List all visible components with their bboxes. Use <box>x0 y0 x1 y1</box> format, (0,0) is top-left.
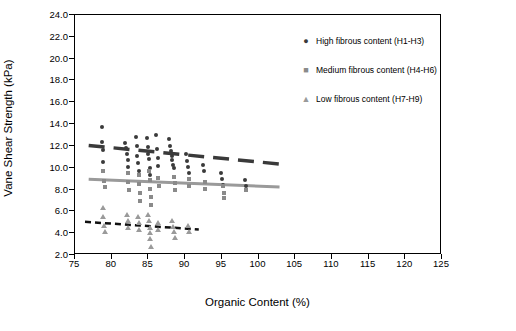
chart-legend: ● High fibrous content (H1-H3) ■ Medium … <box>300 36 437 123</box>
data-point <box>149 195 153 199</box>
x-tick-mark <box>331 254 332 259</box>
legend-circle-icon: ● <box>300 37 312 46</box>
data-point <box>155 227 161 232</box>
data-point <box>155 220 161 225</box>
data-point <box>201 163 205 167</box>
x-tick-label: 125 <box>433 258 449 269</box>
data-point <box>203 180 207 184</box>
data-point <box>137 182 141 186</box>
data-point <box>147 225 153 230</box>
legend-item-medium: ■ Medium fibrous content (H4-H6) <box>300 65 437 75</box>
data-point <box>187 171 191 175</box>
data-point <box>100 140 104 144</box>
y-tick-label: 2.0 <box>42 249 68 260</box>
y-tick-label: 12.0 <box>42 139 68 150</box>
x-tick-mark <box>221 254 222 259</box>
data-point <box>149 203 153 207</box>
data-point <box>186 165 190 169</box>
data-point <box>103 185 107 189</box>
data-point <box>101 169 105 173</box>
data-point <box>187 184 191 188</box>
data-point <box>137 173 141 177</box>
data-point <box>146 152 150 156</box>
data-point <box>156 156 160 160</box>
y-tick-label: 16.0 <box>42 96 68 107</box>
chart-container: Vane Shear Strength (kPa) Organic Conten… <box>0 0 516 331</box>
data-point <box>244 188 248 192</box>
data-point <box>186 229 192 234</box>
data-point <box>172 166 176 170</box>
data-point <box>126 158 130 162</box>
data-point <box>102 179 106 183</box>
data-point <box>102 229 108 234</box>
data-point <box>147 169 151 173</box>
data-point <box>202 169 206 173</box>
x-tick-mark <box>111 254 112 259</box>
y-tick-label: 8.0 <box>42 183 68 194</box>
legend-triangle-icon: ▲ <box>300 95 312 104</box>
data-point <box>184 152 188 156</box>
x-tick-label: 80 <box>105 258 116 269</box>
data-point <box>156 176 160 180</box>
data-point <box>148 187 152 191</box>
x-tick-label: 75 <box>69 258 80 269</box>
data-point <box>172 175 176 179</box>
data-point <box>138 199 142 203</box>
y-axis-label: Vane Shear Strength (kPa) <box>2 33 14 223</box>
y-tick-mark <box>69 79 74 80</box>
y-tick-label: 6.0 <box>42 205 68 216</box>
y-tick-label: 20.0 <box>42 52 68 63</box>
data-point <box>172 235 178 240</box>
y-tick-label: 4.0 <box>42 227 68 238</box>
data-point <box>157 184 161 188</box>
data-point <box>136 227 142 232</box>
data-point <box>127 188 131 192</box>
x-tick-mark <box>368 254 369 259</box>
data-point <box>100 205 106 210</box>
data-point <box>135 214 141 219</box>
y-tick-mark <box>69 210 74 211</box>
y-tick-label: 24.0 <box>42 9 68 20</box>
data-point <box>101 223 107 228</box>
data-point <box>145 212 151 217</box>
x-tick-mark <box>404 254 405 259</box>
x-tick-mark <box>74 254 75 259</box>
x-tick-label: 105 <box>286 258 302 269</box>
y-tick-mark <box>69 101 74 102</box>
data-point <box>187 177 191 181</box>
y-tick-mark <box>69 145 74 146</box>
x-tick-label: 90 <box>179 258 190 269</box>
y-tick-mark <box>69 14 74 15</box>
data-point <box>147 236 153 241</box>
data-point <box>100 214 106 219</box>
data-point <box>220 177 224 181</box>
data-point <box>136 220 142 225</box>
data-point <box>125 218 131 223</box>
y-tick-mark <box>69 189 74 190</box>
x-axis-label: Organic Content (%) <box>74 296 441 308</box>
y-tick-mark <box>69 36 74 37</box>
x-tick-label: 95 <box>216 258 227 269</box>
data-point <box>171 229 177 234</box>
data-point <box>126 180 130 184</box>
x-tick-label: 110 <box>323 258 338 269</box>
x-tick-mark <box>258 254 259 259</box>
y-tick-mark <box>69 123 74 124</box>
y-tick-mark <box>69 232 74 233</box>
x-tick-label: 85 <box>142 258 153 269</box>
y-tick-mark <box>69 167 74 168</box>
legend-item-low: ▲ Low fibrous content (H7-H9) <box>300 94 437 104</box>
data-point <box>138 191 142 195</box>
x-tick-mark <box>184 254 185 259</box>
data-point <box>222 191 226 195</box>
x-tick-mark <box>147 254 148 259</box>
legend-item-high: ● High fibrous content (H1-H3) <box>300 36 437 46</box>
y-tick-mark <box>69 58 74 59</box>
legend-label-high: High fibrous content (H1-H3) <box>316 36 424 46</box>
data-point <box>148 178 152 182</box>
data-point <box>126 171 130 175</box>
data-point <box>185 223 191 228</box>
x-tick-label: 115 <box>360 258 375 269</box>
data-point <box>222 196 226 200</box>
data-point <box>124 212 130 217</box>
